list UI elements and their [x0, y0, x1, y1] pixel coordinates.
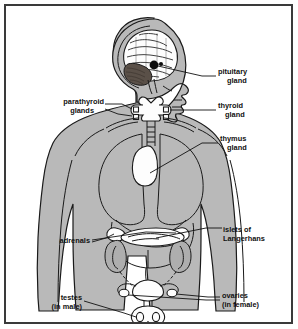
label-parathyroid-glands-line1: parathyroid: [63, 97, 104, 106]
label-islets-of-langerhans-line1: islets of: [223, 225, 251, 234]
uterus-shape: [133, 280, 164, 301]
endocrine-system-illustration: pituitary gland thyroid gland parathyroi…: [6, 6, 291, 322]
label-ovaries-line2: (in female): [222, 300, 259, 309]
label-thymus-gland-line1: thymus: [220, 134, 246, 143]
testes-region: [131, 306, 164, 322]
left-ovary-shape: [119, 289, 129, 297]
diagram-frame: pituitary gland thyroid gland parathyroi…: [4, 4, 293, 324]
label-islets-of-langerhans-line2: Langerhans: [223, 234, 265, 243]
label-testes-line2: (in male): [52, 302, 83, 311]
label-thyroid-gland-line2: gland: [225, 110, 245, 119]
label-adrenals: adrenals: [60, 236, 90, 245]
diagram-canvas: pituitary gland thyroid gland parathyroi…: [6, 6, 291, 322]
label-parathyroid-glands-line2: glands: [70, 106, 94, 115]
thymus-gland-shape: [133, 146, 158, 186]
scrotum-shape: [131, 306, 164, 322]
label-pituitary-gland-line2: gland: [227, 76, 247, 85]
label-thymus-gland-line2: gland: [227, 143, 247, 152]
label-ovaries-line1: ovaries: [222, 291, 248, 300]
pituitary-gland-marker: [150, 61, 159, 70]
right-ovary-shape: [167, 289, 177, 297]
right-testis-shape: [152, 312, 159, 321]
label-testes-line1: testes: [61, 293, 82, 302]
label-pituitary-gland-line1: pituitary: [218, 67, 248, 76]
label-thyroid-gland-line1: thyroid: [218, 101, 244, 110]
left-testis-shape: [136, 312, 143, 321]
